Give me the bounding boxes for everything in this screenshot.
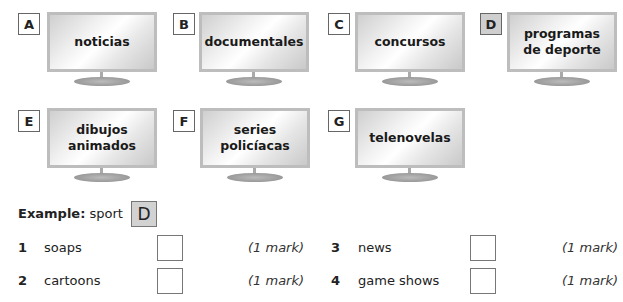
option-letter-d: D <box>480 13 502 35</box>
tv-stand-base <box>74 173 130 182</box>
tv-option-f: seriespolicíacas <box>200 108 310 186</box>
option-letter-c: C <box>328 13 350 35</box>
option-letter-g: G <box>328 110 350 132</box>
tv-label-line: programas <box>524 26 600 41</box>
example-word: sport <box>90 206 123 221</box>
tv-stand-base <box>227 173 283 182</box>
question-word-soaps: soaps <box>44 240 82 255</box>
tv-label-dibujos-animados: dibujosanimados <box>68 122 136 154</box>
tv-label-telenovelas: telenovelas <box>369 130 451 146</box>
tv-option-d: programasde deporte <box>507 12 617 90</box>
mark-label-1: (1 mark) <box>248 240 304 255</box>
example-label: Example: sport <box>18 206 123 221</box>
tv-stand-base <box>74 77 130 86</box>
tv-screen: documentales <box>199 12 309 72</box>
tv-label-concursos: concursos <box>375 34 446 50</box>
tv-label-documentales: documentales <box>205 34 304 50</box>
tv-stand-base <box>534 77 590 86</box>
option-letter-f: F <box>173 110 195 132</box>
question-word-game-shows: game shows <box>358 273 439 288</box>
question-word-cartoons: cartoons <box>44 273 100 288</box>
option-letter-e: E <box>18 110 40 132</box>
tv-option-b: documentales <box>199 12 309 90</box>
question-number-3: 3 <box>331 240 340 255</box>
question-number-4: 4 <box>331 273 340 288</box>
tv-stand-base <box>226 77 282 86</box>
tv-stand-base <box>382 173 438 182</box>
option-letter-a: A <box>18 13 40 35</box>
option-letter-b: B <box>173 13 195 35</box>
tv-label-line: de deporte <box>523 42 600 57</box>
tv-stand-base <box>382 77 438 86</box>
tv-label-series-policiacas: seriespolicíacas <box>220 122 290 154</box>
example-answer-box: D <box>131 201 157 227</box>
mark-label-3: (1 mark) <box>562 240 618 255</box>
answer-box-1[interactable] <box>157 235 183 261</box>
tv-option-a: noticias <box>47 12 157 90</box>
tv-label-line: policíacas <box>220 138 290 153</box>
tv-label-programas-de-deporte: programasde deporte <box>523 26 600 58</box>
mark-label-2: (1 mark) <box>248 273 304 288</box>
tv-screen: programasde deporte <box>507 12 617 72</box>
question-number-2: 2 <box>18 273 27 288</box>
answer-box-4[interactable] <box>470 268 496 294</box>
question-word-news: news <box>358 240 392 255</box>
tv-label-line: series <box>234 122 276 137</box>
tv-screen: telenovelas <box>355 108 465 168</box>
tv-screen: noticias <box>47 12 157 72</box>
answer-box-2[interactable] <box>157 268 183 294</box>
tv-screen: dibujosanimados <box>47 108 157 168</box>
question-number-1: 1 <box>18 240 27 255</box>
tv-option-e: dibujosanimados <box>47 108 157 186</box>
tv-option-c: concursos <box>355 12 465 90</box>
tv-label-line: animados <box>68 138 136 153</box>
tv-screen: concursos <box>355 12 465 72</box>
mark-label-4: (1 mark) <box>562 273 618 288</box>
tv-label-noticias: noticias <box>74 34 129 50</box>
tv-option-g: telenovelas <box>355 108 465 186</box>
example-prefix: Example: <box>18 206 85 221</box>
tv-screen: seriespolicíacas <box>200 108 310 168</box>
tv-label-line: dibujos <box>76 122 127 137</box>
answer-box-3[interactable] <box>470 235 496 261</box>
